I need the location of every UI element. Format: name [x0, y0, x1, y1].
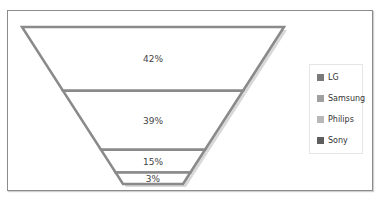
data-label: 15% — [143, 157, 163, 167]
funnel-segment-samsung: 39% — [63, 91, 246, 153]
legend-item-lg: LG — [317, 73, 339, 82]
legend-item-sony: Sony — [317, 136, 348, 145]
legend-item-samsung: Samsung — [317, 94, 365, 103]
data-label: 3% — [146, 174, 161, 184]
legend-swatch — [317, 74, 324, 81]
data-label: 39% — [143, 116, 163, 126]
legend-swatch — [317, 95, 324, 102]
legend-label: Philips — [328, 115, 354, 124]
legend-swatch — [317, 137, 324, 144]
legend-label: Sony — [328, 136, 348, 145]
funnel-segment-sony: 3% — [116, 173, 194, 187]
legend-swatch — [317, 116, 324, 123]
legend-item-philips: Philips — [317, 115, 354, 124]
legend: LG Samsung Philips Sony — [309, 64, 363, 154]
legend-label: Samsung — [328, 94, 365, 103]
data-label: 42% — [143, 54, 163, 64]
legend-label: LG — [328, 73, 339, 82]
funnel-segment-lg: 42% — [22, 27, 287, 94]
